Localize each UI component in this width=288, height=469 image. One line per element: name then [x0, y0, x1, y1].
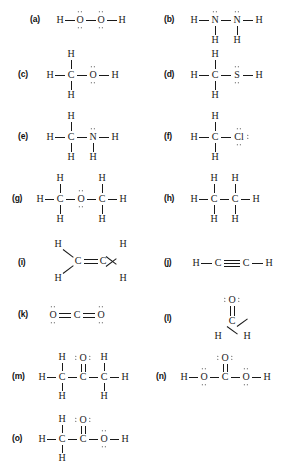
atom-c: C: [222, 372, 229, 382]
bond-triple: [224, 260, 240, 261]
structure-label-j: (j): [164, 257, 171, 267]
structure-n: (n) H O C O O H: [144, 344, 288, 402]
atom-c: C: [80, 434, 87, 444]
bond-triple: [224, 266, 240, 267]
atom-h: H: [255, 70, 262, 80]
bond-single: [221, 137, 231, 138]
bond-single: [201, 263, 212, 264]
lone-pair-dots: [235, 82, 239, 83]
atom-h: H: [111, 132, 118, 142]
lone-pair-dots: [78, 27, 82, 28]
bond-single: [89, 377, 98, 378]
bond-single: [89, 439, 98, 440]
atom-h: H: [252, 194, 259, 204]
atom-h: H: [56, 214, 63, 224]
atom-c: C: [232, 194, 239, 204]
bond-single: [47, 377, 56, 378]
atom-h: H: [111, 70, 118, 80]
atom-h: H: [265, 258, 272, 268]
atom-h: H: [211, 152, 218, 162]
lone-pair-dots: [217, 356, 218, 360]
lone-pair-dots: [89, 356, 90, 360]
bond-single: [107, 20, 117, 21]
structure-label-a: (a): [30, 14, 40, 24]
bond-single: [45, 199, 54, 200]
bond-single: [214, 184, 215, 193]
atom-h: H: [210, 173, 217, 183]
atom-c: C: [75, 256, 82, 266]
atom-c: C: [243, 258, 250, 268]
atom-c: C: [68, 70, 75, 80]
atom-h: H: [119, 194, 126, 204]
bond-single: [60, 184, 61, 193]
bond-single: [99, 137, 109, 138]
bond-single: [87, 199, 96, 200]
bond-single: [241, 199, 250, 200]
bond-single: [62, 425, 63, 433]
bond-double: [223, 364, 224, 372]
atom-h: H: [118, 15, 125, 25]
bond-double: [85, 364, 86, 372]
structure-d: (d) H C H H S H: [144, 48, 288, 104]
atom-c: C: [212, 70, 219, 80]
lone-pair-dots: [235, 66, 239, 67]
structure-label-k: (k): [18, 309, 28, 319]
bond-single: [215, 122, 216, 131]
atom-h: H: [67, 90, 74, 100]
bond-single: [65, 20, 75, 21]
atom-h: H: [58, 453, 65, 463]
atom-c: C: [100, 256, 107, 266]
structure-k: (k) O C O: [0, 290, 144, 342]
bond-double: [81, 364, 82, 372]
bond-single: [77, 137, 87, 138]
atom-h: H: [38, 372, 45, 382]
atom-o: O: [89, 70, 96, 80]
atom-h: H: [89, 152, 96, 162]
bond-single: [99, 75, 109, 76]
atom-h: H: [190, 70, 197, 80]
lone-pair-dots: [51, 306, 55, 307]
atom-h: H: [56, 173, 63, 183]
atom-h: H: [243, 331, 250, 341]
lone-pair-dots: [244, 368, 248, 369]
bond-double: [59, 313, 71, 314]
lone-pair-dots: [99, 27, 103, 28]
bond-single: [63, 249, 74, 258]
structure-o: (o) H C H H C O O H: [0, 406, 144, 464]
atom-h: H: [180, 372, 187, 382]
bond-single: [220, 199, 229, 200]
atom-h: H: [231, 214, 238, 224]
lone-pair-dots: [237, 128, 241, 129]
lone-pair-dots: [79, 190, 83, 191]
atom-h: H: [214, 331, 221, 341]
atom-c: C: [59, 434, 66, 444]
bond-single: [55, 75, 65, 76]
atom-c: C: [212, 132, 219, 142]
bond-single: [86, 20, 96, 21]
atom-n: N: [211, 15, 218, 25]
structure-label-i: (i): [18, 257, 25, 267]
lone-pair-dots: [75, 356, 76, 360]
atom-c: C: [211, 194, 218, 204]
bond-double: [81, 426, 82, 434]
bond-single: [110, 377, 119, 378]
atom-h: H: [192, 258, 199, 268]
bond-single: [199, 137, 209, 138]
bond-single: [77, 75, 87, 76]
bond-single: [71, 60, 72, 69]
bond-double: [83, 317, 95, 318]
bond-single: [189, 377, 198, 378]
atom-h: H: [233, 35, 240, 45]
atom-n: N: [89, 132, 96, 142]
bond-double: [59, 317, 71, 318]
atom-o: O: [221, 353, 228, 363]
bond-single: [210, 377, 219, 378]
lone-pair-dots: [99, 306, 103, 307]
bond-single: [104, 363, 105, 371]
structure-l: (l) O C H H: [144, 290, 288, 342]
structure-b: (b) H N N H H H: [144, 0, 288, 46]
atom-h: H: [211, 35, 218, 45]
atom-h: H: [58, 391, 65, 401]
atom-o: O: [97, 15, 104, 25]
lone-pair-dots: [75, 418, 76, 422]
